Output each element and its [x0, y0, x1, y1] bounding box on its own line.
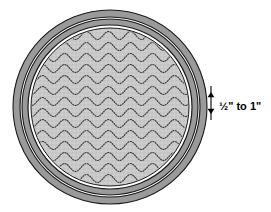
diagram-canvas: ½" to 1" — [0, 0, 271, 212]
dimension-arrow-up-icon — [208, 92, 215, 97]
edge-thickness-dimension: ½" to 1" — [208, 86, 262, 120]
ring-interior-fill — [31, 28, 189, 186]
dimension-label: ½" to 1" — [219, 100, 261, 112]
dimension-arrow-down-icon — [208, 109, 215, 114]
circular-cross-section-diagram: ½" to 1" — [0, 0, 271, 212]
